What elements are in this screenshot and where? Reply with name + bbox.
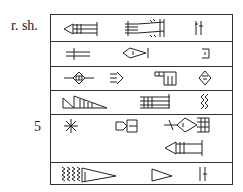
cuneiform-sign-6c-icon	[198, 166, 208, 182]
cuneiform-sign-4c-icon	[198, 93, 212, 111]
reverse-shoulder-label: r. sh.	[11, 18, 38, 34]
cuneiform-sign-2c-icon	[201, 46, 211, 60]
cuneiform-sign-4b-icon	[139, 93, 171, 109]
table-row	[51, 66, 232, 91]
cuneiform-sign-3b-icon	[109, 70, 125, 86]
table-row	[51, 90, 232, 115]
cuneiform-sign-5c-icon	[163, 115, 211, 135]
cuneiform-sign-1b-icon	[124, 18, 166, 38]
cuneiform-sign-1c-icon	[194, 20, 204, 36]
cuneiform-sign-3c-icon	[154, 70, 178, 86]
cuneiform-sign-5b-icon	[115, 118, 139, 134]
cuneiform-sign-2a-icon	[65, 47, 91, 61]
cuneiform-sign-4a-icon	[62, 94, 108, 110]
cuneiform-sign-3a-icon	[63, 70, 95, 86]
table-row	[51, 15, 232, 42]
cuneiform-sign-6b-icon	[151, 168, 173, 182]
cuneiform-sign-5a-icon	[63, 118, 79, 134]
table-row	[51, 162, 232, 186]
cuneiform-sign-1a-icon	[63, 21, 99, 37]
cuneiform-sign-6a-icon	[60, 165, 118, 183]
table-row	[51, 41, 232, 67]
table-row	[51, 114, 232, 163]
cuneiform-sign-3d-icon	[198, 70, 212, 86]
cuneiform-sign-2b-icon	[122, 46, 150, 60]
cuneiform-sign-5d-icon	[164, 139, 204, 157]
line-5-label: 5	[34, 119, 41, 135]
cuneiform-table	[50, 14, 233, 185]
